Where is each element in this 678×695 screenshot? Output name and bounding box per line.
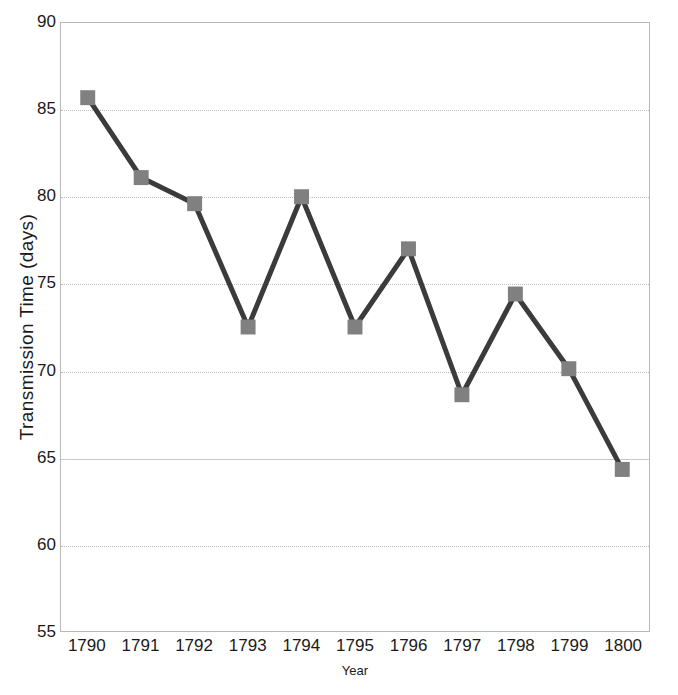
x-tick-label: 1799 — [551, 636, 589, 656]
data-point-marker — [454, 387, 469, 402]
x-tick-label: 1792 — [175, 636, 213, 656]
data-point-marker — [80, 90, 95, 105]
x-tick-label: 1791 — [122, 636, 160, 656]
series-line — [88, 98, 623, 470]
x-tick-label: 1794 — [282, 636, 320, 656]
x-tick-label: 1790 — [68, 636, 106, 656]
data-point-marker — [401, 241, 416, 256]
y-tick-label: 60 — [37, 535, 56, 555]
data-series-line — [61, 23, 649, 631]
y-axis-tick-labels: 5560657075808590 — [26, 22, 56, 632]
x-axis-tick-labels: 1790179117921793179417951796179717981799… — [60, 636, 650, 664]
y-tick-label: 80 — [37, 186, 56, 206]
y-tick-label: 55 — [37, 622, 56, 642]
data-point-marker — [241, 320, 256, 335]
x-tick-label: 1796 — [390, 636, 428, 656]
x-tick-label: 1800 — [604, 636, 642, 656]
data-point-marker — [294, 189, 309, 204]
y-tick-label: 75 — [37, 273, 56, 293]
x-tick-label: 1797 — [443, 636, 481, 656]
data-point-marker — [187, 196, 202, 211]
line-chart: Transmission Time (days) 556065707580859… — [0, 0, 678, 695]
x-axis-title: Year — [60, 663, 650, 678]
y-tick-label: 85 — [37, 99, 56, 119]
data-point-marker — [134, 170, 149, 185]
y-tick-label: 90 — [37, 12, 56, 32]
plot-area — [60, 22, 650, 632]
y-tick-label: 65 — [37, 448, 56, 468]
data-point-marker — [561, 361, 576, 376]
data-point-marker — [348, 320, 363, 335]
y-tick-label: 70 — [37, 361, 56, 381]
x-tick-label: 1795 — [336, 636, 374, 656]
data-point-marker — [508, 287, 523, 302]
data-point-marker — [615, 462, 630, 477]
x-tick-label: 1798 — [497, 636, 535, 656]
x-tick-label: 1793 — [229, 636, 267, 656]
